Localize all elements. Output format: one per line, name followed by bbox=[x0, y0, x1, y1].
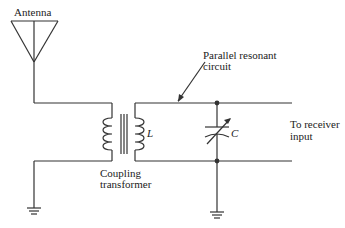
primary-coil-icon bbox=[103, 118, 112, 150]
capacitor-label: C bbox=[231, 128, 238, 139]
resonant-label-line2: circuit bbox=[203, 61, 231, 72]
ground-left-icon bbox=[27, 208, 41, 214]
inductor-label: L bbox=[147, 128, 153, 139]
antenna-label: Antenna bbox=[14, 7, 51, 18]
output-label-line1: To receiver bbox=[290, 119, 340, 130]
secondary-coil-icon bbox=[135, 118, 144, 150]
primary-wires bbox=[34, 103, 112, 208]
output-label-line2: input bbox=[290, 131, 313, 142]
junction-dot-top bbox=[215, 101, 220, 106]
antenna-icon bbox=[11, 21, 58, 103]
pointer-arrow-line bbox=[178, 62, 205, 101]
transformer-core-icon bbox=[121, 114, 127, 154]
coupling-label-line2: transformer bbox=[100, 179, 151, 190]
secondary-wires bbox=[135, 103, 292, 212]
arrowhead-icon bbox=[178, 94, 184, 102]
circuit-diagram bbox=[0, 0, 345, 228]
ground-right-icon bbox=[210, 212, 224, 218]
junction-dot-bottom bbox=[215, 159, 220, 164]
capacitor-arrowhead-icon bbox=[224, 118, 231, 124]
